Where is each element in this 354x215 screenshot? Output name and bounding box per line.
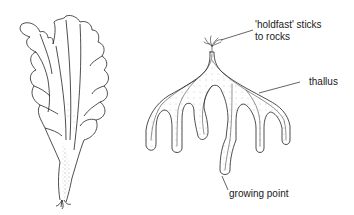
growing-point-label: growing point (229, 188, 288, 200)
leafy-holdfast (56, 200, 71, 209)
thallus-label: thallus (309, 76, 338, 88)
holdfast-leader-line (221, 30, 253, 40)
thallus-body (146, 52, 290, 175)
leafy-seaweed-illustration (20, 15, 108, 209)
branched-seaweed-illustration (146, 36, 290, 175)
holdfast (204, 36, 222, 52)
holdfast-label-line2: to rocks (255, 31, 290, 43)
thallus-leader-line (259, 82, 300, 93)
diagram-canvas (0, 0, 354, 215)
growing-point-leader-line (222, 176, 228, 190)
holdfast-label-line1: 'holdfast' sticks (255, 19, 322, 31)
